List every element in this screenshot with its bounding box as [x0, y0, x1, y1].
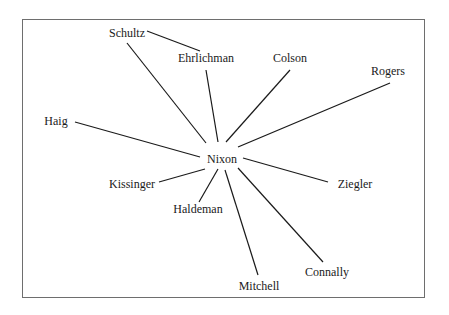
node-mitchell: Mitchell — [239, 280, 280, 292]
edge-colson-nixon — [226, 70, 290, 142]
node-nixon: Nixon — [207, 153, 237, 165]
node-kissinger: Kissinger — [109, 178, 155, 190]
edge-haig-nixon — [75, 122, 200, 157]
node-connally: Connally — [305, 266, 349, 278]
node-schultz: Schultz — [109, 27, 145, 39]
node-ziegler: Ziegler — [338, 178, 373, 190]
edge-ziegler-nixon — [243, 158, 328, 182]
node-haig: Haig — [44, 115, 67, 127]
node-haldeman: Haldeman — [173, 203, 222, 215]
node-rogers: Rogers — [371, 65, 405, 77]
edge-mitchell-nixon — [225, 170, 258, 275]
edge-connally-nixon — [238, 168, 323, 262]
edge-ehrlichman-nixon — [206, 70, 218, 142]
edge-rogers-nixon — [238, 83, 390, 147]
edge-schultz-ehrlichman — [147, 31, 200, 51]
edge-haldeman-nixon — [199, 169, 218, 202]
edge-kissinger-nixon — [159, 169, 205, 182]
node-ehrlichman: Ehrlichman — [178, 52, 234, 64]
node-colson: Colson — [273, 52, 307, 64]
